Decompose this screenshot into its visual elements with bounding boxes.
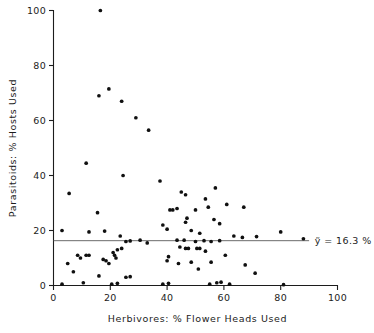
data-point bbox=[177, 262, 181, 266]
data-point bbox=[124, 240, 128, 244]
data-point bbox=[99, 9, 103, 13]
y-tick-label-0: 0 bbox=[40, 280, 46, 291]
data-point bbox=[167, 281, 171, 285]
data-point bbox=[253, 271, 257, 275]
data-point bbox=[187, 247, 191, 251]
data-point bbox=[124, 275, 128, 279]
data-point bbox=[114, 256, 118, 260]
data-point bbox=[60, 282, 64, 286]
data-point bbox=[179, 190, 183, 194]
data-point bbox=[161, 223, 165, 227]
data-point bbox=[175, 238, 179, 242]
plot-canvas: 020406080100 020406080100 Herbivores: % … bbox=[0, 0, 374, 333]
data-points bbox=[60, 9, 305, 287]
data-point bbox=[66, 262, 70, 266]
data-point bbox=[167, 255, 171, 259]
data-point bbox=[60, 229, 64, 233]
data-point bbox=[241, 236, 245, 240]
data-point bbox=[196, 267, 200, 271]
data-point bbox=[96, 211, 100, 215]
x-axis-title: Herbivores: % Flower Heads Used bbox=[108, 313, 287, 324]
data-point bbox=[202, 239, 206, 243]
data-point bbox=[302, 237, 306, 241]
data-point bbox=[255, 235, 259, 239]
data-point bbox=[189, 260, 193, 264]
data-point bbox=[194, 240, 198, 244]
y-tick-label-100: 100 bbox=[27, 5, 46, 16]
data-point bbox=[161, 282, 165, 286]
data-point bbox=[97, 94, 101, 98]
data-point bbox=[147, 128, 151, 132]
data-point bbox=[116, 281, 120, 285]
y-tick-label-80: 80 bbox=[33, 60, 46, 71]
data-point bbox=[171, 208, 175, 212]
x-tick-label-80: 80 bbox=[274, 292, 287, 303]
data-point bbox=[184, 220, 188, 224]
y-axis: 020406080100 bbox=[27, 5, 54, 291]
data-point bbox=[178, 245, 182, 249]
data-point bbox=[120, 99, 124, 103]
data-point bbox=[232, 234, 236, 238]
data-point bbox=[134, 116, 138, 120]
data-point bbox=[279, 230, 283, 234]
data-point bbox=[218, 222, 222, 226]
data-point bbox=[198, 231, 202, 235]
x-tick-label-100: 100 bbox=[328, 292, 347, 303]
data-point bbox=[215, 281, 219, 285]
data-point bbox=[194, 208, 198, 212]
data-point bbox=[72, 270, 76, 274]
data-point bbox=[116, 248, 120, 252]
data-point bbox=[79, 256, 83, 260]
data-point bbox=[97, 274, 101, 278]
data-point bbox=[204, 197, 208, 201]
x-tick-label-20: 20 bbox=[104, 292, 117, 303]
data-point bbox=[103, 229, 107, 233]
data-point bbox=[185, 216, 189, 220]
x-tick-label-60: 60 bbox=[218, 292, 231, 303]
data-point bbox=[184, 193, 188, 197]
x-tick-label-40: 40 bbox=[161, 292, 174, 303]
data-point bbox=[87, 253, 91, 257]
data-point bbox=[189, 229, 193, 233]
data-point bbox=[218, 239, 222, 243]
data-point bbox=[110, 282, 114, 286]
y-tick-label-20: 20 bbox=[33, 225, 46, 236]
data-point bbox=[219, 280, 223, 284]
annotations: ỹ = 16.3 % bbox=[315, 235, 372, 246]
data-point bbox=[87, 230, 91, 234]
axis-titles: Herbivores: % Flower Heads UsedParasitoi… bbox=[7, 79, 287, 324]
data-point bbox=[282, 283, 286, 287]
data-point bbox=[204, 249, 208, 253]
data-point bbox=[81, 281, 85, 285]
data-point bbox=[121, 174, 125, 178]
x-axis: 020406080100 bbox=[50, 286, 347, 304]
data-point bbox=[206, 205, 210, 209]
data-point bbox=[243, 263, 247, 267]
scatter-plot-figure: 020406080100 020406080100 Herbivores: % … bbox=[0, 0, 374, 333]
data-point bbox=[165, 259, 169, 263]
data-point bbox=[107, 87, 111, 91]
data-point bbox=[209, 260, 213, 264]
data-point bbox=[118, 234, 122, 238]
data-point bbox=[223, 253, 227, 257]
data-point bbox=[128, 239, 132, 243]
data-point bbox=[165, 227, 169, 231]
data-point bbox=[158, 179, 162, 183]
data-point bbox=[209, 240, 213, 244]
data-point bbox=[104, 259, 108, 263]
data-point bbox=[225, 203, 229, 207]
y-tick-label-60: 60 bbox=[33, 115, 46, 126]
data-point bbox=[84, 161, 88, 165]
data-point bbox=[198, 247, 202, 251]
data-point bbox=[175, 207, 179, 211]
mean-label: ỹ = 16.3 % bbox=[315, 235, 372, 246]
data-point bbox=[76, 253, 80, 257]
data-point bbox=[67, 192, 71, 196]
data-point bbox=[212, 218, 216, 222]
data-point bbox=[182, 238, 186, 242]
y-axis-title: Parasitoids: % Hosts Used bbox=[7, 79, 18, 217]
data-point bbox=[145, 241, 149, 245]
data-point bbox=[138, 238, 142, 242]
data-point bbox=[120, 247, 124, 251]
y-tick-label-40: 40 bbox=[33, 170, 46, 181]
